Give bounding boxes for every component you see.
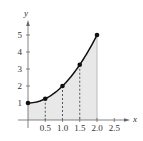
x-axis-label: x: [132, 114, 137, 124]
x-tick-label: 1.0: [57, 123, 69, 133]
y-tick-label: 2: [18, 81, 23, 91]
x-tick-label: 2.5: [109, 123, 121, 133]
data-point: [60, 84, 65, 89]
y-tick-label: 5: [18, 30, 23, 40]
y-tick-labels: 12345: [18, 30, 23, 108]
x-tick-label: 2.0: [91, 123, 103, 133]
x-tick-labels: 0.51.01.52.02.5: [40, 123, 121, 133]
y-axis-arrow-icon: [26, 20, 30, 26]
data-point: [26, 101, 31, 106]
data-point: [43, 96, 48, 101]
x-tick-label: 1.5: [74, 123, 86, 133]
y-tick-label: 4: [18, 47, 23, 57]
y-axis-label: y: [23, 8, 28, 18]
data-point: [95, 33, 100, 38]
x-axis-arrow-icon: [124, 118, 130, 122]
y-tick-label: 3: [18, 64, 23, 74]
data-point: [77, 62, 82, 67]
y-tick-label: 1: [18, 98, 23, 108]
x-tick-label: 0.5: [40, 123, 52, 133]
area-chart: 0.51.01.52.02.5 12345 x y: [0, 0, 143, 141]
